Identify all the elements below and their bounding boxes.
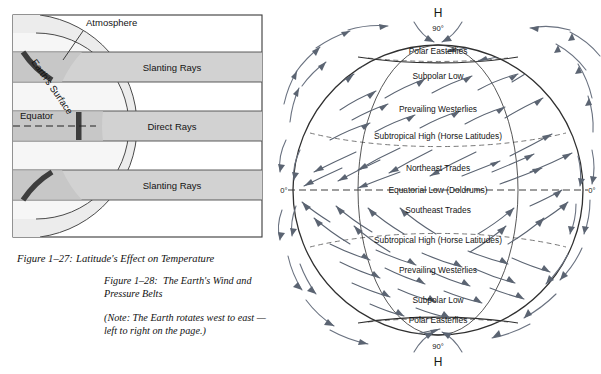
figure-28-caption: Figure 1–28: The Earth's Wind and Pressu… <box>103 275 267 337</box>
figure-27-diagram: Atmosphere Slanting Rays Direct Rays Sla… <box>13 15 262 237</box>
figure-page: Atmosphere Slanting Rays Direct Rays Sla… <box>0 0 601 374</box>
figure-28-caption-prefix: Figure 1–28: <box>103 275 158 286</box>
figure-27-caption-prefix: Figure 1–27: <box>16 253 73 264</box>
figure-28-caption-line1: The Earth's Wind and <box>163 275 252 286</box>
diagram-canvas: Atmosphere Slanting Rays Direct Rays Sla… <box>0 0 601 374</box>
belt-label-southeast-trades: Southeast Trades <box>405 205 471 215</box>
belt-label-northeast-trades: Northeast Trades <box>406 163 470 173</box>
belt-label-subtropical-high-south: Subtropical High (Horse Latitudes) <box>374 235 502 245</box>
belt-label-equatorial-low: Equatorial Low (Doldrums) <box>388 185 487 195</box>
belt-label-polar-easterlies-south: Polar Easterlies <box>409 315 468 325</box>
figure-28-note-line2: left to right on the page.) <box>104 325 206 337</box>
belt-label-subpolar-low-south: Subpolar Low <box>412 295 464 305</box>
atmosphere-label: Atmosphere <box>86 17 137 28</box>
equator-right-degree-label: 0° <box>588 186 595 195</box>
figure-28-note-line1: (Note: The Earth rotates west to east — <box>104 312 267 324</box>
slanting-rays-top-label: Slanting Rays <box>143 62 202 73</box>
direct-rays-label: Direct Rays <box>147 121 196 132</box>
slanting-rays-bottom-label: Slanting Rays <box>143 180 202 191</box>
belt-label-prevailing-westerlies-south: Prevailing Westerlies <box>399 265 477 275</box>
figure-28-caption-line2: Pressure Belts <box>103 288 162 299</box>
north-pole-latitude: 90° <box>432 24 443 33</box>
belt-label-subtropical-high-north: Subtropical High (Horse Latitudes) <box>374 131 502 141</box>
equator-left-degree-label: 0° <box>280 186 287 195</box>
north-pole-pressure-symbol: H <box>434 6 443 20</box>
figure-27-caption: Figure 1–27: Latitude's Effect on Temper… <box>16 253 215 264</box>
belt-label-subpolar-low-north: Subpolar Low <box>412 71 464 81</box>
belt-label-prevailing-westerlies-north: Prevailing Westerlies <box>399 104 477 114</box>
figure-27-caption-text: Latitude's Effect on Temperature <box>75 253 215 264</box>
belt-label-polar-easterlies-north: Polar Easterlies <box>409 46 468 56</box>
figure-28-diagram: H 90° Polar Easterlies Subpolar Low Prev… <box>278 6 600 369</box>
south-pole-pressure-symbol: H <box>434 355 443 369</box>
south-pole-latitude: 90° <box>432 342 443 351</box>
equator-label: Equator <box>20 110 53 121</box>
